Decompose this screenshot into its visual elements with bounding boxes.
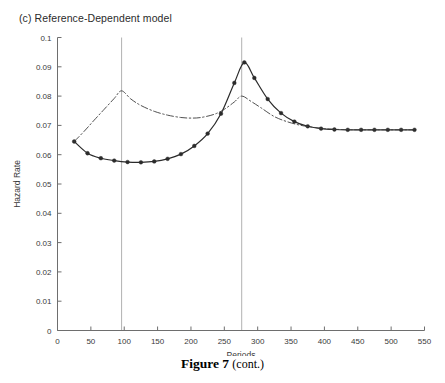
y-axis-tick-label: 0.05: [36, 180, 52, 189]
x-axis-tick-label: 500: [384, 337, 398, 346]
x-axis-tick-label: 100: [118, 337, 132, 346]
data-point-marker: [139, 160, 143, 164]
x-axis-tick-label: 450: [351, 337, 365, 346]
data-point-marker: [292, 120, 296, 124]
x-axis-tick-label: 400: [318, 337, 332, 346]
data-point-marker: [152, 160, 156, 164]
data-point-marker: [86, 151, 90, 155]
y-axis-tick-label: 0.02: [36, 268, 52, 277]
x-axis-tick-label: 0: [55, 337, 60, 346]
data-point-marker: [266, 97, 270, 101]
data-point-marker: [179, 152, 183, 156]
data-point-marker: [232, 81, 236, 85]
y-axis-tick-label: 0.07: [36, 121, 52, 130]
figure-caption-suffix: (cont.): [232, 357, 264, 371]
y-axis-tick-label: 0.09: [36, 63, 52, 72]
data-point-marker: [206, 132, 210, 136]
y-axis-tick-label: 0.01: [36, 297, 52, 306]
x-axis-tick-label: 150: [151, 337, 165, 346]
series-line-hazard-rate-with-markers: [74, 62, 414, 162]
x-axis-tick-label: 300: [251, 337, 265, 346]
data-point-marker: [126, 160, 130, 164]
y-axis-tick-label: 0.08: [36, 92, 52, 101]
y-axis-tick-label: 0.06: [36, 151, 52, 160]
y-axis-tick-label: 0.03: [36, 239, 52, 248]
y-axis-tick-label: 0.04: [36, 209, 52, 218]
data-point-marker: [242, 61, 246, 65]
series-markers-hazard-rate-with-markers: [72, 61, 416, 165]
y-axis-title: Hazard Rate: [12, 160, 22, 208]
figure-caption-label: Figure 7: [181, 356, 229, 371]
data-point-marker: [166, 157, 170, 161]
x-axis-tick-label: 550: [418, 337, 432, 346]
x-axis-tick-label: 200: [184, 337, 198, 346]
x-axis-tick-label: 250: [218, 337, 232, 346]
x-axis-tick-label: 350: [284, 337, 298, 346]
figure-container: (c) Reference-Dependent model 00.010.020…: [0, 0, 445, 383]
hazard-rate-chart: 00.010.020.030.040.050.060.070.080.090.1…: [0, 0, 445, 356]
y-axis-tick-label: 0: [47, 327, 52, 336]
data-point-marker: [112, 159, 116, 163]
figure-caption: Figure 7 (cont.): [0, 356, 445, 372]
data-point-marker: [279, 111, 283, 115]
x-axis-tick-label: 50: [86, 337, 95, 346]
data-point-marker: [192, 144, 196, 148]
data-point-marker: [99, 156, 103, 160]
series-line-hazard-rate-reference: [74, 91, 414, 142]
data-point-marker: [252, 76, 256, 80]
y-axis-tick-label: 0.1: [40, 34, 52, 43]
